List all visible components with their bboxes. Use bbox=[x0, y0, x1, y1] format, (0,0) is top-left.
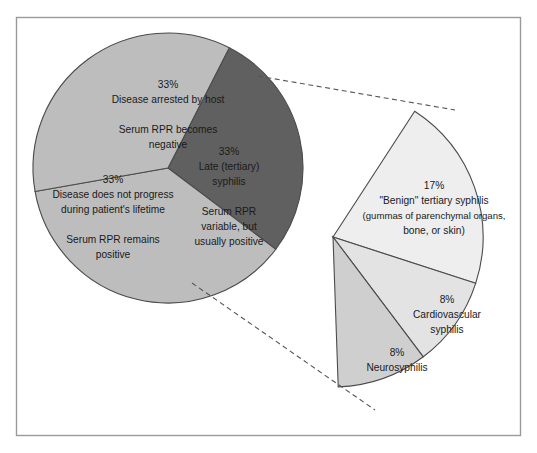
label-disease-arrested-percent: 33% bbox=[158, 79, 178, 90]
main-pie bbox=[33, 33, 303, 303]
label-neurosyphilis-line1: Neurosyphilis bbox=[366, 362, 427, 373]
label-cardiovascular-line1: Cardiovascular bbox=[413, 309, 482, 320]
label-late-tertiary-percent: 33% bbox=[219, 146, 239, 157]
pie-chart-figure: 33% Disease arrested by host Serum RPR b… bbox=[0, 0, 537, 453]
label-no-progress-line2: during patient's lifetime bbox=[61, 204, 165, 215]
label-no-progress-line1: Disease does not progress bbox=[52, 189, 173, 200]
label-neurosyphilis-percent: 8% bbox=[390, 347, 405, 358]
label-cardiovascular-line2: syphilis bbox=[430, 324, 463, 335]
label-late-tertiary-line5: usually positive bbox=[194, 236, 263, 247]
label-no-progress-percent: 33% bbox=[103, 174, 123, 185]
label-disease-arrested-line1: Disease arrested by host bbox=[112, 94, 225, 105]
label-disease-arrested-line2: Serum RPR becomes bbox=[119, 124, 218, 135]
label-benign-percent: 17% bbox=[424, 180, 444, 191]
label-cardiovascular-percent: 8% bbox=[440, 294, 455, 305]
label-no-progress-line4: positive bbox=[96, 249, 131, 260]
label-late-tertiary-line3: Serum RPR bbox=[202, 206, 256, 217]
label-disease-arrested-line3: negative bbox=[149, 139, 188, 150]
figure-root: 33% Disease arrested by host Serum RPR b… bbox=[0, 0, 537, 453]
label-late-tertiary-line4: variable, but bbox=[201, 221, 257, 232]
label-benign-line1: "Benign" tertiary syphilis bbox=[379, 195, 488, 206]
label-late-tertiary-line2: syphilis bbox=[212, 176, 245, 187]
label-late-tertiary-line1: Late (tertiary) bbox=[199, 161, 260, 172]
label-no-progress-line3: Serum RPR remains bbox=[66, 234, 159, 245]
label-benign-line3: bone, or skin) bbox=[403, 225, 465, 236]
label-benign-line2: (gummas of parenchymal organs, bbox=[363, 210, 506, 221]
